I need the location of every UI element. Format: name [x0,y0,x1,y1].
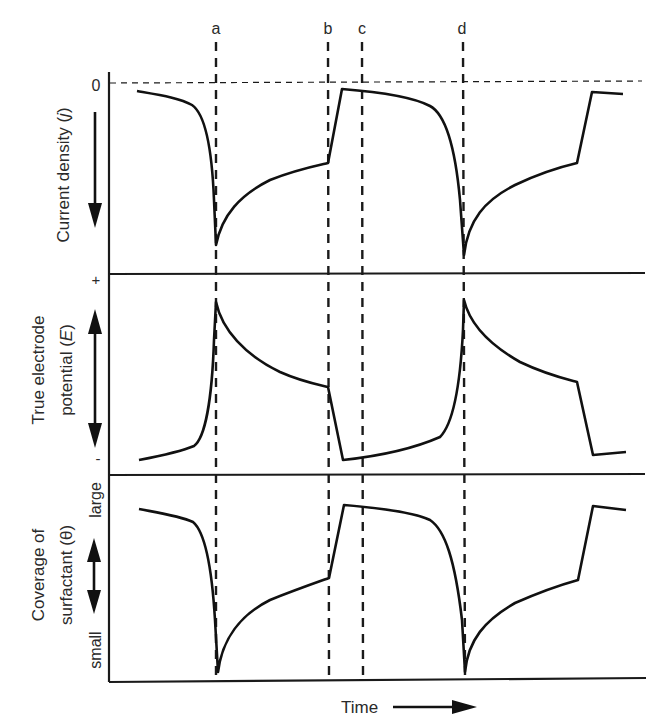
panel-divider-2 [109,474,645,475]
marker-line-c [362,42,363,676]
coverage-double-arrow-icon [87,538,101,614]
axes-frame [109,72,646,682]
tick-small: small [87,631,104,668]
down-arrow-icon [88,112,102,228]
zero-reference-line [110,81,642,83]
tick-minus: - [96,450,101,467]
tick-plus: + [92,271,101,288]
current-density-ylabel: Current density (j) [54,107,73,242]
potential-ylabel-line2: potential (E) [57,324,76,416]
potential-ylabel-line1: True electrode [29,316,48,425]
x-axis-label: Time [341,698,378,717]
coverage-ylabel-line1: Coverage of [29,528,48,621]
potential-double-arrow-icon [88,309,102,448]
surfactant-coverage-curve [139,505,626,672]
marker-label-c: c [358,20,366,37]
event-marker-lines [216,42,465,676]
tick-zero: 0 [92,77,101,94]
marker-label-a: a [212,20,221,37]
marker-label-d: d [458,20,467,37]
coverage-ylabel-line2: surfactant (θ) [57,525,76,625]
electrode-potential-curve [139,300,626,460]
marker-label-b: b [324,20,333,37]
panel-divider-1 [109,273,645,274]
marker-line-b [328,42,329,676]
marker-line-d [463,42,465,676]
bottom-axis [109,678,646,682]
tick-large: large [87,482,104,518]
right-arrow-icon [393,700,477,714]
current-density-curve [137,89,623,255]
figure: a b c d 0 Current density (j) + - True e… [0,0,667,727]
